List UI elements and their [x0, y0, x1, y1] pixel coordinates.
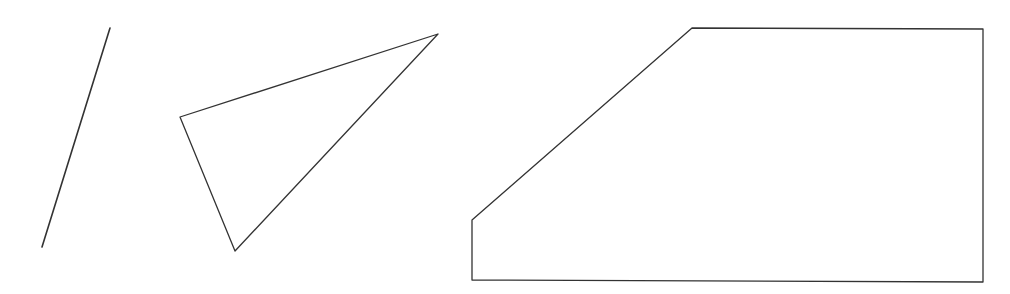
- pentagon-shape: [472, 28, 983, 282]
- shapes-svg: [0, 0, 1010, 294]
- line-segment: [42, 28, 110, 247]
- triangle-shape: [180, 34, 438, 251]
- drawing-canvas: [0, 0, 1010, 294]
